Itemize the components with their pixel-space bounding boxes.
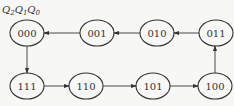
- state-node-011: 011: [199, 20, 233, 46]
- state-node-001: 001: [80, 20, 114, 46]
- state-label: 000: [17, 28, 36, 39]
- state-node-111: 111: [10, 73, 44, 99]
- state-label: 010: [147, 28, 166, 39]
- state-variables-header: Q2Q1Q0: [2, 4, 41, 17]
- state-node-101: 101: [136, 73, 170, 99]
- state-node-110: 110: [69, 73, 103, 99]
- state-label: 100: [205, 81, 224, 92]
- transitions: [27, 33, 215, 86]
- state-label: 110: [76, 81, 95, 92]
- state-label: 101: [143, 81, 162, 92]
- states: 000001010011111110101100: [10, 20, 233, 99]
- state-diagram: Q2Q1Q0 000001010011111110101100: [0, 0, 234, 106]
- state-label: 001: [87, 28, 106, 39]
- state-node-010: 010: [140, 20, 174, 46]
- state-label: 011: [206, 28, 225, 39]
- state-node-000: 000: [10, 20, 44, 46]
- state-label: 111: [17, 81, 36, 92]
- state-node-100: 100: [198, 73, 232, 99]
